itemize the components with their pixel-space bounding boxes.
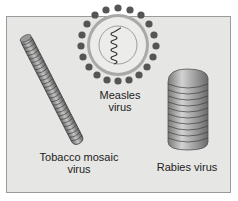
rabies-virus-icon — [168, 69, 208, 150]
tobacco-mosaic-virus-icon — [19, 33, 85, 146]
tobacco-label-line1: Tobacco mosaic — [34, 151, 124, 163]
measles-label-line2: virus — [94, 101, 146, 113]
tobacco-label-line2: virus — [34, 163, 124, 175]
measles-label-line1: Measles — [94, 89, 146, 101]
measles-label: Measles virus — [94, 89, 146, 113]
measles-virus-icon — [77, 4, 159, 84]
tobacco-mosaic-label: Tobacco mosaic virus — [34, 151, 124, 175]
rabies-label: Rabies virus — [152, 161, 222, 173]
rabies-label-line1: Rabies virus — [152, 161, 222, 173]
